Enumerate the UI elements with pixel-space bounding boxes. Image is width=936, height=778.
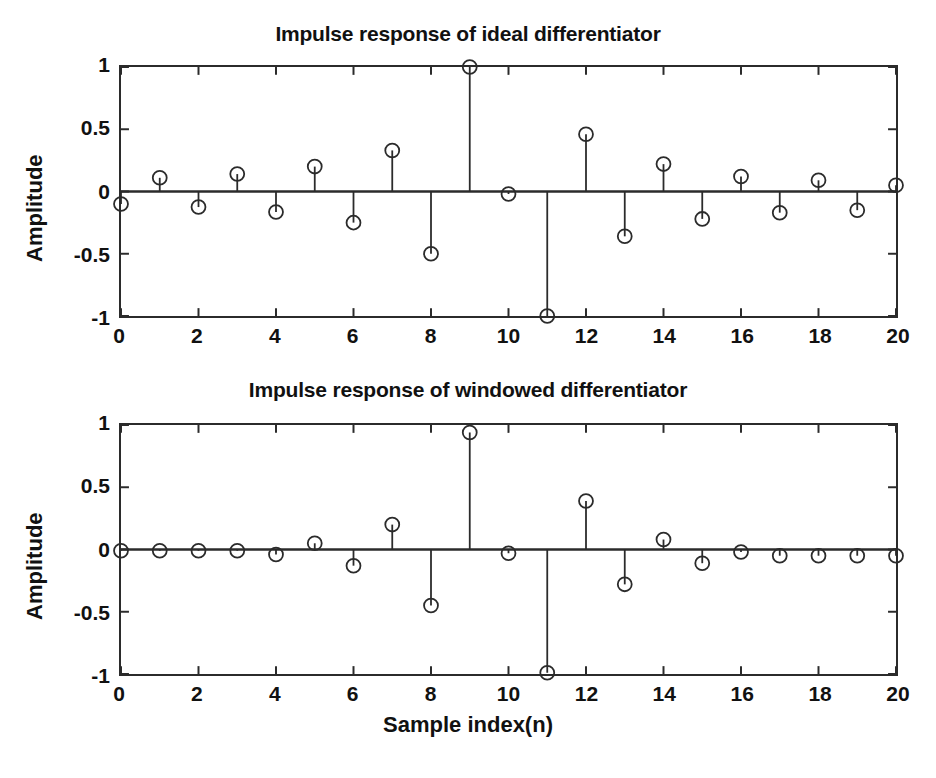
y-tick-label: -1: [55, 664, 110, 688]
y-tick-label: 0: [55, 180, 110, 204]
x-tick-label: 18: [808, 682, 831, 706]
x-tick-label: 0: [113, 682, 125, 706]
plot-area-ideal: [119, 65, 898, 318]
y-tick-label: 1: [55, 53, 110, 77]
y-axis-label-ideal: Amplitude: [22, 154, 48, 262]
y-tick-label: 0.5: [55, 474, 110, 498]
plot-area-windowed: [119, 423, 898, 676]
x-tick-label: 12: [575, 682, 598, 706]
x-tick-label: 6: [347, 324, 359, 348]
x-tick-label: 4: [269, 324, 281, 348]
x-tick-label: 14: [653, 324, 676, 348]
stem-plot-windowed: [121, 425, 896, 674]
x-tick-label: 18: [808, 324, 831, 348]
y-axis-label-windowed: Amplitude: [22, 512, 48, 620]
y-tick-label: -1: [55, 306, 110, 330]
x-tick-label: 10: [497, 682, 520, 706]
y-tick-label: -0.5: [55, 601, 110, 625]
stem-plot-ideal: [121, 67, 896, 316]
x-tick-label: 20: [886, 682, 909, 706]
chart-title-ideal: Impulse response of ideal differentiator: [0, 22, 936, 46]
x-tick-label: 0: [113, 324, 125, 348]
x-tick-label: 8: [425, 682, 437, 706]
y-tick-label: -0.5: [55, 243, 110, 267]
x-tick-label: 4: [269, 682, 281, 706]
chart-title-windowed: Impulse response of windowed differentia…: [0, 378, 936, 402]
x-tick-label: 2: [191, 324, 203, 348]
x-tick-label: 20: [886, 324, 909, 348]
x-tick-label: 12: [575, 324, 598, 348]
x-tick-label: 6: [347, 682, 359, 706]
y-tick-label: 0: [55, 538, 110, 562]
x-tick-label: 16: [731, 682, 754, 706]
x-tick-label: 10: [497, 324, 520, 348]
figure-canvas: Impulse response of ideal differentiator…: [0, 0, 936, 778]
y-tick-label: 1: [55, 411, 110, 435]
x-tick-label: 14: [653, 682, 676, 706]
y-tick-label: 0.5: [55, 116, 110, 140]
x-axis-label: Sample index(n): [0, 712, 936, 738]
chart-panel-ideal: Impulse response of ideal differentiator…: [0, 0, 936, 390]
x-tick-label: 16: [731, 324, 754, 348]
x-tick-label: 2: [191, 682, 203, 706]
x-tick-label: 8: [425, 324, 437, 348]
